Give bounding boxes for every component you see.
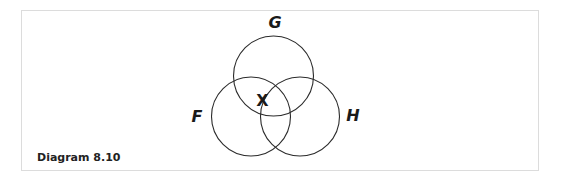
element-x-label: X (256, 91, 269, 110)
set-g-label: G (268, 13, 281, 32)
set-f-circle (212, 77, 291, 156)
set-h-label: H (346, 106, 360, 125)
diagram-caption: Diagram 8.10 (37, 151, 120, 164)
set-f-label: F (192, 107, 203, 126)
set-g-circle (234, 36, 314, 116)
